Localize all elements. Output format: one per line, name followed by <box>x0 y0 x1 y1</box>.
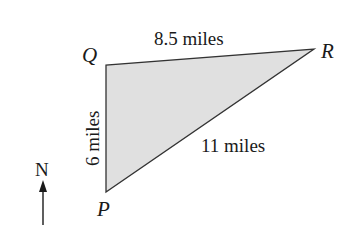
triangle-diagram: Q R P 8.5 miles 11 miles 6 miles N <box>0 0 352 239</box>
vertex-label-q: Q <box>82 43 97 67</box>
triangle-pqr <box>106 49 314 192</box>
side-label-pq: 6 miles <box>82 111 103 166</box>
side-label-qr: 8.5 miles <box>154 28 224 49</box>
north-compass: N <box>35 159 49 225</box>
side-label-pr: 11 miles <box>201 135 265 156</box>
north-label: N <box>35 159 49 180</box>
vertex-label-r: R <box>320 39 334 63</box>
vertex-label-p: P <box>96 197 110 221</box>
